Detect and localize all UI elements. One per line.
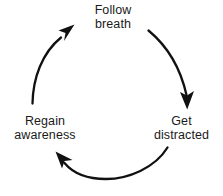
node-label-regain-awareness-line2: awareness: [0, 129, 90, 143]
node-label-follow-breath: Follow breath: [63, 4, 163, 31]
node-label-follow-breath-line2: breath: [63, 18, 163, 32]
node-label-get-distracted: Get distracted: [140, 115, 223, 142]
cycle-diagram: Follow breath Get distracted Regain awar…: [0, 0, 223, 196]
arrow-distracted-to-regain-head: [56, 152, 73, 169]
node-label-get-distracted-line2: distracted: [140, 129, 223, 143]
arrow-regain-to-follow: [33, 25, 75, 104]
arrow-distracted-to-regain-curve: [65, 148, 168, 180]
node-label-regain-awareness-line1: Regain: [0, 115, 90, 129]
arrow-distracted-to-regain: [56, 148, 168, 180]
arrow-follow-to-distracted-curve: [149, 31, 187, 96]
node-label-get-distracted-line1: Get: [140, 115, 223, 129]
node-label-follow-breath-line1: Follow: [63, 4, 163, 18]
node-label-regain-awareness: Regain awareness: [0, 115, 90, 142]
arrow-follow-to-distracted: [149, 31, 195, 110]
arrow-regain-to-follow-curve: [33, 38, 62, 104]
